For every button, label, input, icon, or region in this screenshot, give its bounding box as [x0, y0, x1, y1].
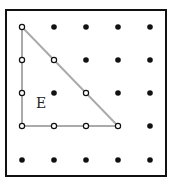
shape-label-text: E [36, 95, 46, 111]
peg-dot [19, 90, 24, 95]
peg-dot [147, 57, 153, 63]
peg-dot [83, 57, 89, 63]
peg-dot [51, 123, 56, 128]
peg-dot [115, 90, 121, 96]
triangle-e [22, 27, 118, 126]
peg-dot [147, 123, 153, 129]
peg-dot [115, 157, 121, 163]
peg-dot [147, 24, 153, 30]
peg-dot [51, 57, 56, 62]
peg-dot [51, 24, 57, 30]
peg-dot [19, 57, 24, 62]
peg-dot [147, 157, 153, 163]
peg-dot [19, 24, 24, 29]
peg-dot [83, 90, 88, 95]
peg-dot [19, 157, 25, 163]
peg-dot [83, 123, 88, 128]
peg-dot [83, 24, 89, 30]
peg-dot [51, 90, 57, 96]
peg-dot [51, 157, 57, 163]
peg-dot [115, 24, 121, 30]
peg-dot [147, 90, 153, 96]
geoboard-diagram: E [0, 0, 171, 179]
peg-dot [115, 57, 121, 63]
peg-dot [19, 123, 24, 128]
peg-dot [83, 157, 89, 163]
peg-dot [115, 123, 120, 128]
